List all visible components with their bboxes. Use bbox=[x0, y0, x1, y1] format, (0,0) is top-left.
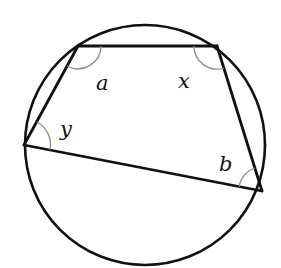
angle-label-a: a bbox=[96, 71, 109, 95]
angle-label-x: x bbox=[178, 69, 190, 93]
angle-arc-b bbox=[239, 168, 255, 187]
angle-label-b: b bbox=[219, 152, 232, 176]
angle-arc-y bbox=[37, 122, 51, 150]
angle-label-y: y bbox=[59, 117, 73, 141]
circumscribed-circle bbox=[25, 25, 265, 265]
cyclic-quadrilateral-diagram: a x y b bbox=[0, 0, 281, 268]
